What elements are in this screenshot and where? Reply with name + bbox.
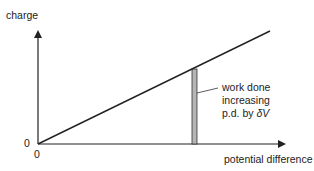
annotation-line1: work done	[221, 81, 271, 93]
annotation-line2: increasing	[222, 94, 270, 106]
annotation-line3: p.d. by δV	[222, 107, 270, 119]
delta-v-symbol: δV	[256, 107, 270, 119]
origin-y-label: 0	[24, 137, 30, 149]
charge-pd-graph: charge potential difference 0 0 work don…	[0, 0, 314, 171]
x-axis-label: potential difference	[224, 153, 313, 165]
origin-x-label: 0	[34, 148, 40, 160]
annotation-leader	[197, 88, 218, 93]
y-axis-label: charge	[6, 9, 38, 21]
work-done-strip	[192, 69, 197, 144]
annotation-line3-text: p.d. by	[222, 107, 256, 119]
